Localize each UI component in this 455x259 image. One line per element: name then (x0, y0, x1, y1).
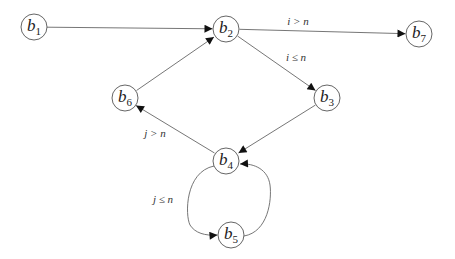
edge-b2-b3: i ≤ n (238, 36, 316, 91)
edge-b2-b7: i > n (240, 15, 406, 34)
node-b6: b6 (112, 85, 138, 111)
node-b5: b5 (218, 222, 244, 248)
node-label-base: b (219, 150, 228, 169)
node-label-sub: 5 (233, 233, 239, 245)
node-label-base: b (219, 18, 228, 37)
node-label-base: b (27, 16, 36, 35)
edge-line (240, 164, 270, 236)
graph-canvas: i > n i ≤ n j > n j ≤ n b1 b (0, 0, 455, 259)
node-label-base: b (412, 23, 421, 42)
edge-b5-b4 (240, 164, 270, 236)
edge-b6-b2 (137, 37, 215, 91)
edge-label-j-le-n: j ≤ n (151, 193, 174, 205)
edge-b3-b4 (239, 105, 316, 153)
edge-line (238, 36, 316, 91)
edge-label-i-le-n: i ≤ n (286, 51, 307, 63)
edge-label-i-gt-n: i > n (287, 15, 309, 27)
node-label-base: b (320, 87, 329, 106)
edge-line (239, 105, 316, 153)
node-b7: b7 (406, 21, 432, 47)
control-flow-graph: i > n i ≤ n j > n j ≤ n b1 b (0, 0, 455, 259)
node-b4: b4 (213, 148, 239, 174)
node-b3: b3 (314, 85, 340, 111)
edge-line (137, 37, 215, 91)
edge-line (47, 27, 213, 29)
node-label-sub: 3 (329, 96, 335, 108)
edge-line (240, 29, 406, 33)
node-label-base: b (224, 224, 233, 243)
edge-b4-b5: j ≤ n (151, 166, 218, 235)
edge-line (187, 166, 217, 235)
node-label-sub: 4 (228, 159, 234, 171)
edge-b4-b6: j > n (136, 106, 215, 154)
node-label-sub: 2 (228, 27, 234, 39)
node-label-base: b (118, 87, 127, 106)
edge-label-j-gt-n: j > n (142, 127, 166, 139)
node-b1: b1 (21, 14, 47, 40)
node-label-sub: 6 (127, 96, 133, 108)
node-label-sub: 7 (421, 32, 427, 44)
edge-b1-b2 (47, 27, 213, 29)
node-b2: b2 (213, 16, 239, 42)
node-label-sub: 1 (36, 25, 42, 37)
